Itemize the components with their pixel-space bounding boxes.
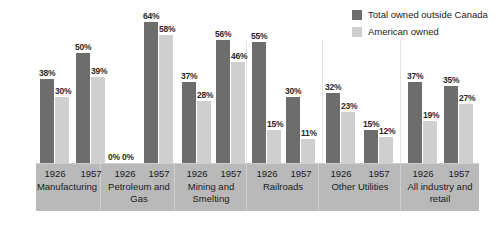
axis-group-other-utilities: 19261957Other Utilities — [322, 164, 398, 211]
axis-year-label: 1926 — [37, 168, 73, 180]
bar-american-owned — [459, 104, 473, 163]
axis-year-label: 1957 — [283, 168, 319, 180]
bar-total-owned-outside-canada — [76, 53, 90, 163]
legend-item-total-owned-outside-canada: Total owned outside Canada — [352, 8, 497, 23]
axis-category-label: Manufacturing — [36, 181, 98, 193]
axis-year-label: 1926 — [179, 168, 215, 180]
year-bars: 55%15% — [252, 0, 281, 163]
bar-american-owned — [379, 137, 393, 163]
bar-american-owned — [91, 77, 105, 163]
axis-year-label: 1957 — [141, 168, 177, 180]
bar-total-owned-outside-canada — [364, 130, 378, 163]
bar-value-label: 32% — [325, 83, 341, 92]
year-bars: 32%23% — [326, 0, 355, 163]
axis-group-railroads: 19261957Railroads — [250, 164, 316, 211]
bar-value-label: 15% — [363, 120, 379, 129]
bar-value-label: 64% — [143, 12, 159, 21]
axis-year-label: 1926 — [249, 168, 285, 180]
legend-swatch-dark-icon — [352, 10, 362, 20]
category-axis-band: 19261957Manufacturing19261957Petroleum a… — [36, 163, 479, 211]
bar-american-owned — [301, 139, 315, 163]
chart-legend: Total owned outside Canada American owne… — [352, 8, 497, 42]
axis-category-label: Petroleum and Gas — [104, 181, 174, 204]
bar-value-label: 35% — [443, 76, 459, 85]
axis-year-label: 1957 — [213, 168, 249, 180]
year-bars: 0% 0% — [110, 0, 139, 163]
bar-total-owned-outside-canada — [326, 93, 340, 163]
bar-american-owned — [423, 121, 437, 163]
bar-total-owned-outside-canada — [408, 82, 422, 163]
bar-value-label: 38% — [39, 69, 55, 78]
bar-total-owned-outside-canada — [144, 22, 158, 163]
legend-swatch-light-icon — [352, 27, 362, 37]
year-bars: 37%28% — [182, 0, 211, 163]
bar-value-label: 37% — [181, 72, 197, 81]
group-separator — [400, 40, 401, 163]
axis-group-manufacturing: 19261957Manufacturing — [36, 164, 98, 211]
year-bars: 64%58% — [144, 0, 173, 163]
axis-year-label: 1926 — [107, 168, 143, 180]
axis-group-all-industry-and-retail: 19261957All industry and retail — [404, 164, 476, 211]
bar-value-label: 19% — [423, 111, 439, 120]
bar-total-owned-outside-canada — [216, 40, 230, 163]
bar-value-label: 11% — [301, 129, 317, 138]
grouped-bar-chart: 38%30%50%39%0% 0%64%58%37%28%56%46%55%15… — [0, 0, 497, 229]
axis-category-label: Other Utilities — [322, 181, 398, 193]
axis-year-label: 1957 — [361, 168, 397, 180]
bar-value-label: 30% — [285, 87, 301, 96]
axis-category-label: Mining and Smelting — [178, 181, 244, 204]
axis-category-label: All industry and retail — [404, 181, 476, 204]
bar-total-owned-outside-canada — [182, 82, 196, 163]
axis-group-petroleum-and-gas: 19261957Petroleum and Gas — [104, 164, 174, 211]
bar-value-label: 12% — [379, 127, 395, 136]
bar-value-label: 27% — [459, 94, 475, 103]
year-bars: 50%39% — [76, 0, 105, 163]
band-separator — [400, 164, 401, 211]
year-bars: 56%46% — [216, 0, 245, 163]
legend-item-american-owned: American owned — [352, 25, 497, 40]
bar-american-owned — [231, 62, 245, 163]
bar-total-owned-outside-canada — [40, 79, 54, 163]
bar-value-label: 15% — [267, 120, 283, 129]
year-bars: 30%11% — [286, 0, 315, 163]
bar-value-label: 30% — [55, 87, 71, 96]
bar-american-owned — [159, 35, 173, 163]
legend-label: American owned — [368, 25, 439, 39]
bar-value-label: 55% — [251, 32, 267, 41]
axis-year-label: 1957 — [441, 168, 477, 180]
bar-total-owned-outside-canada — [444, 86, 458, 163]
axis-year-label: 1926 — [405, 168, 441, 180]
bar-american-owned — [341, 112, 355, 163]
bar-value-label: 58% — [159, 25, 175, 34]
bar-total-owned-outside-canada — [286, 97, 300, 163]
bar-group: 55%15%30%11% — [250, 0, 316, 163]
bar-american-owned — [267, 130, 281, 163]
bar-group: 37%28%56%46% — [178, 0, 244, 163]
axis-category-label: Railroads — [250, 181, 316, 193]
bar-value-label: 50% — [75, 43, 91, 52]
legend-label: Total owned outside Canada — [368, 8, 488, 22]
bar-american-owned — [197, 101, 211, 163]
bar-group: 38%30%50%39% — [36, 0, 98, 163]
bar-value-label: 56% — [215, 30, 231, 39]
year-bars: 38%30% — [40, 0, 69, 163]
bar-group: 0% 0%64%58% — [104, 0, 174, 163]
axis-year-label: 1926 — [323, 168, 359, 180]
bar-value-label: 37% — [407, 72, 423, 81]
bar-total-owned-outside-canada — [252, 42, 266, 163]
bar-value-label: 23% — [341, 102, 357, 111]
zero-value-label: 0% 0% — [108, 152, 134, 162]
bar-value-label: 46% — [231, 52, 247, 61]
axis-group-mining-and-smelting: 19261957Mining and Smelting — [178, 164, 244, 211]
bar-american-owned — [55, 97, 69, 163]
bar-value-label: 28% — [197, 91, 213, 100]
